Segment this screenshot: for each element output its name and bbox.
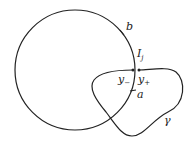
diagram: b Ij y− y+ a γ: [0, 0, 190, 141]
label-y-plus: y+: [137, 73, 150, 87]
label-gamma: γ: [164, 114, 171, 127]
label-I-j: Ij: [136, 47, 144, 62]
label-a: a: [137, 88, 144, 101]
label-y-minus: y−: [117, 73, 130, 87]
tick-b: [120, 30, 124, 35]
circle: [15, 10, 135, 130]
label-b: b: [126, 20, 133, 33]
point-y-minus: [132, 69, 135, 72]
point-y-plus: [138, 69, 141, 72]
